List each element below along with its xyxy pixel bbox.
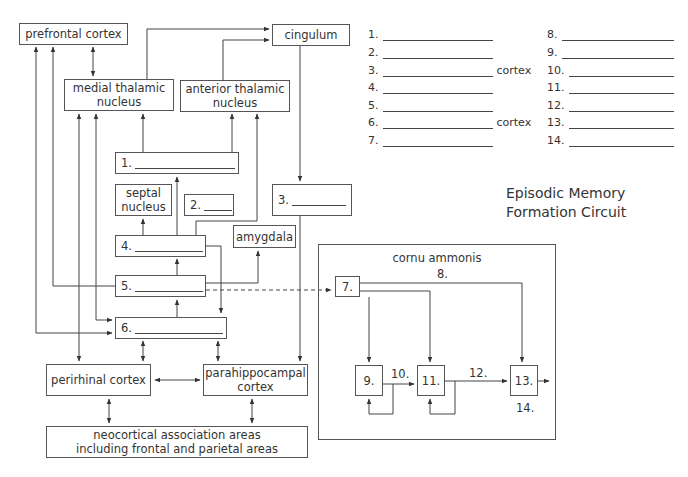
answer-row-5: 5. xyxy=(368,99,497,112)
parahippocampal-label-1: parahippocampal xyxy=(205,366,305,380)
septal-nucleus-box: septal nucleus xyxy=(115,184,172,216)
answer-num: 6. xyxy=(368,116,379,129)
box-3-blank[interactable] xyxy=(292,195,346,206)
answer-num: 5. xyxy=(368,99,379,112)
medial-thalamic-label-1: medial thalamic xyxy=(73,81,165,95)
box-9-number: 9. xyxy=(364,374,375,388)
answer-row-4: 4. xyxy=(368,81,497,94)
box-13: 13. xyxy=(510,365,538,396)
medial-thalamic-nucleus-box: medial thalamic nucleus xyxy=(64,79,174,111)
answer-line[interactable] xyxy=(569,119,674,129)
answer-line[interactable] xyxy=(383,31,493,41)
answer-num: 10. xyxy=(547,64,565,77)
box-1-blank[interactable] xyxy=(135,158,235,169)
diagram-title: Episodic Memory Formation Circuit xyxy=(506,184,626,222)
box-11-number: 11. xyxy=(422,374,440,388)
answer-num: 7. xyxy=(368,134,379,147)
box-6-number: 6. xyxy=(121,321,132,335)
title-line-1: Episodic Memory xyxy=(506,184,626,203)
answer-num: 1. xyxy=(368,28,379,41)
answer-num: 3. xyxy=(368,64,379,77)
box-6-blank[interactable] xyxy=(135,323,223,334)
answer-num: 4. xyxy=(368,81,379,94)
answer-line[interactable] xyxy=(383,119,493,129)
parahippocampal-cortex-box: parahippocampal cortex xyxy=(203,364,308,396)
edge-label-12: 12. xyxy=(469,366,487,380)
box-2-number: 2. xyxy=(190,198,201,212)
neocortical-label-2: including frontal and parietal areas xyxy=(76,442,278,456)
box-2: 2. xyxy=(184,194,234,216)
answer-num: 12. xyxy=(547,99,565,112)
answer-row-13: 13. xyxy=(547,116,674,129)
perirhinal-cortex-box: perirhinal cortex xyxy=(46,364,151,396)
box-1: 1. xyxy=(115,152,239,174)
answer-line[interactable] xyxy=(562,49,674,59)
answer-row-7: 7. xyxy=(368,134,497,147)
edge-label-14: 14. xyxy=(516,401,534,415)
box-7: 7. xyxy=(335,276,360,297)
answer-row-10: 10. xyxy=(547,64,674,77)
anterior-thalamic-label-1: anterior thalamic xyxy=(185,82,284,96)
answer-line[interactable] xyxy=(569,137,674,147)
answer-line[interactable] xyxy=(569,102,674,112)
parahippocampal-label-2: cortex xyxy=(237,380,273,394)
answer-row-11: 11. xyxy=(547,81,674,94)
answer-suffix: cortex xyxy=(497,116,532,129)
box-6: 6. xyxy=(115,317,227,339)
answer-line[interactable] xyxy=(383,137,493,147)
cingulum-label: cingulum xyxy=(284,28,337,42)
answer-num: 14. xyxy=(547,134,565,147)
answer-row-3: 3.cortex xyxy=(368,64,531,77)
answer-row-2: 2. xyxy=(368,46,497,59)
prefrontal-cortex-box: prefrontal cortex xyxy=(19,23,128,45)
medial-thalamic-label-2: nucleus xyxy=(97,95,141,109)
anterior-thalamic-label-2: nucleus xyxy=(213,96,257,110)
answer-line[interactable] xyxy=(383,49,493,59)
box-4-number: 4. xyxy=(121,239,132,253)
cingulum-box: cingulum xyxy=(272,24,350,46)
box-13-number: 13. xyxy=(515,374,533,388)
amygdala-label: amygdala xyxy=(236,230,293,244)
answer-line[interactable] xyxy=(569,84,674,94)
box-3: 3. xyxy=(272,184,352,216)
box-5-number: 5. xyxy=(121,279,132,293)
septal-label-1: septal xyxy=(126,186,161,200)
edge-label-8: 8. xyxy=(437,267,448,281)
answer-num: 11. xyxy=(547,81,565,94)
box-2-blank[interactable] xyxy=(204,200,232,211)
answer-num: 8. xyxy=(547,28,558,41)
answer-num: 2. xyxy=(368,46,379,59)
answer-line[interactable] xyxy=(569,67,674,77)
title-line-2: Formation Circuit xyxy=(506,203,626,222)
anterior-thalamic-nucleus-box: anterior thalamic nucleus xyxy=(180,80,290,112)
answer-suffix: cortex xyxy=(497,64,532,77)
box-7-number: 7. xyxy=(342,280,353,294)
prefrontal-cortex-label: prefrontal cortex xyxy=(25,27,121,41)
answer-row-8: 8. xyxy=(547,28,674,41)
answer-row-9: 9. xyxy=(547,46,674,59)
septal-label-2: nucleus xyxy=(121,200,165,214)
answer-row-14: 14. xyxy=(547,134,674,147)
box-3-number: 3. xyxy=(278,193,289,207)
cornu-ammonis-label: cornu ammonis xyxy=(319,251,555,265)
answer-line[interactable] xyxy=(383,102,493,112)
answer-line[interactable] xyxy=(383,67,493,77)
answer-row-1: 1. xyxy=(368,28,497,41)
edge-label-10: 10. xyxy=(391,367,409,381)
amygdala-box: amygdala xyxy=(233,225,296,248)
answer-row-12: 12. xyxy=(547,99,674,112)
answer-row-6: 6.cortex xyxy=(368,116,531,129)
box-11: 11. xyxy=(417,365,445,396)
box-4: 4. xyxy=(115,235,206,257)
answer-num: 9. xyxy=(547,46,558,59)
box-1-number: 1. xyxy=(121,156,132,170)
box-4-blank[interactable] xyxy=(135,241,203,252)
box-9: 9. xyxy=(355,365,383,396)
neocortical-label-1: neocortical association areas xyxy=(93,428,260,442)
neocortical-association-areas-box: neocortical association areas including … xyxy=(46,426,308,458)
box-5: 5. xyxy=(115,275,206,297)
box-5-blank[interactable] xyxy=(135,281,203,292)
answer-line[interactable] xyxy=(383,84,493,94)
perirhinal-label: perirhinal cortex xyxy=(51,373,146,387)
answer-line[interactable] xyxy=(562,31,674,41)
